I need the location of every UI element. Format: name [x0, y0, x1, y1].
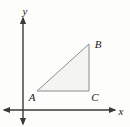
- vertex-label-b: B: [95, 38, 102, 50]
- figure-container: y x A B C: [0, 0, 130, 127]
- vertex-label-c: C: [91, 91, 99, 103]
- vertex-label-a: A: [28, 91, 36, 103]
- y-axis-label: y: [22, 5, 28, 17]
- x-axis-label: x: [118, 105, 124, 117]
- coordinate-figure-svg: y x A B C: [0, 0, 130, 127]
